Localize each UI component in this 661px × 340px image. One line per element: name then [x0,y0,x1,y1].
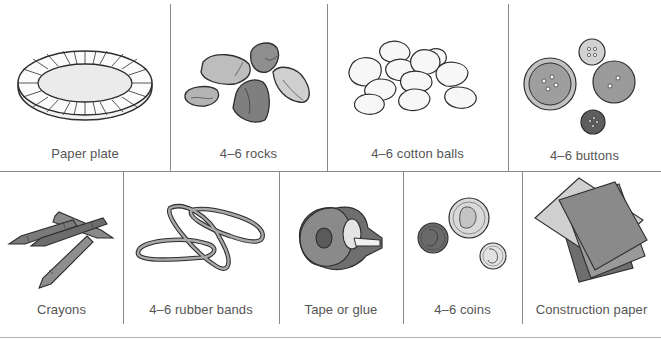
item-tape: Tape or glue [279,172,403,324]
item-rocks: 4–6 rocks [170,0,327,171]
item-label: 4–6 cotton balls [327,146,508,161]
buttons-icon [522,38,647,138]
bottom-border [0,337,661,338]
item-paper-plate: Paper plate [0,0,170,171]
tape-dispenser-icon [296,202,386,274]
construction-paper-icon [529,174,654,289]
materials-list-sheet: Paper plate 4–6 rocks [0,0,661,340]
item-label: 4–6 coins [403,302,522,317]
item-coins: 4–6 coins [403,172,522,324]
item-label: 4–6 buttons [508,148,661,163]
item-label: Crayons [0,302,123,317]
item-construction-paper: Construction paper [522,172,661,324]
item-crayons: Crayons [0,172,123,324]
item-label: 4–6 rocks [170,146,327,161]
item-label: 4–6 rubber bands [123,302,279,317]
rubber-bands-icon [134,202,269,277]
crayons-icon [7,208,117,290]
paper-plate-icon [15,45,155,125]
item-label: Paper plate [0,146,170,161]
coins-icon [413,194,513,274]
item-rubber-bands: 4–6 rubber bands [123,172,279,324]
rocks-icon [179,40,319,125]
item-label: Construction paper [522,302,661,317]
cotton-balls-icon [348,38,488,118]
item-buttons: 4–6 buttons [508,0,661,171]
item-label: Tape or glue [279,302,403,317]
item-cotton-balls: 4–6 cotton balls [327,0,508,171]
